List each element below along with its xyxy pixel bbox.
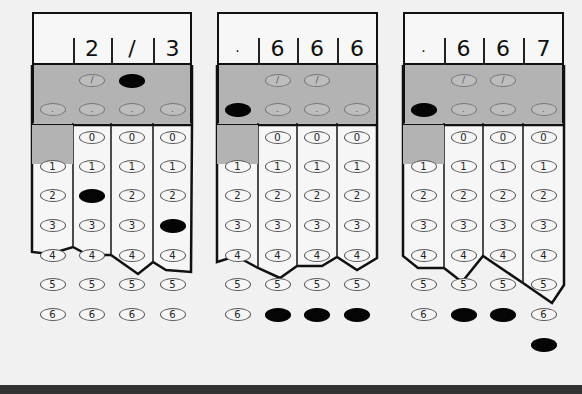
bubble-4[interactable]: 4 <box>490 249 516 262</box>
bubble-dot[interactable]: . <box>344 103 370 116</box>
answer-entry-box[interactable]: / <box>111 37 153 61</box>
bubble-3[interactable]: 3 <box>304 219 330 232</box>
bubble-4[interactable]: 4 <box>304 249 330 262</box>
filled-bubble-6[interactable] <box>451 308 477 322</box>
bubble-5[interactable]: 5 <box>490 278 516 291</box>
answer-entry-box[interactable]: 7 <box>523 37 564 61</box>
bubble-dot[interactable]: . <box>490 103 516 116</box>
bubble-1[interactable]: 1 <box>304 160 330 173</box>
bubble-5[interactable]: 5 <box>265 278 291 291</box>
bubble-slash[interactable]: / <box>451 74 477 87</box>
filled-bubble-6[interactable] <box>265 308 291 322</box>
bubble-0[interactable]: 0 <box>531 131 557 144</box>
bubble-3[interactable]: 3 <box>411 219 437 232</box>
bubble-6[interactable]: 6 <box>160 308 186 321</box>
bubble-6[interactable]: 6 <box>119 308 145 321</box>
answer-entry-box[interactable]: 6 <box>297 37 337 61</box>
bubble-0[interactable]: 0 <box>490 131 516 144</box>
bubble-5[interactable]: 5 <box>531 278 557 291</box>
bubble-2[interactable]: 2 <box>411 189 437 202</box>
bubble-2[interactable]: 2 <box>265 189 291 202</box>
bubble-1[interactable]: 1 <box>79 160 105 173</box>
bubble-4[interactable]: 4 <box>119 249 145 262</box>
bubble-2[interactable]: 2 <box>225 189 251 202</box>
bubble-5[interactable]: 5 <box>119 278 145 291</box>
bubble-3[interactable]: 3 <box>490 219 516 232</box>
bubble-1[interactable]: 1 <box>451 160 477 173</box>
bubble-1[interactable]: 1 <box>225 160 251 173</box>
filled-bubble-6[interactable] <box>490 308 516 322</box>
bubble-4[interactable]: 4 <box>451 249 477 262</box>
bubble-slash[interactable]: / <box>79 74 105 87</box>
bubble-dot[interactable]: . <box>304 103 330 116</box>
filled-bubble-slash[interactable] <box>119 74 145 88</box>
bubble-2[interactable]: 2 <box>490 189 516 202</box>
bubble-dot[interactable]: . <box>79 103 105 116</box>
answer-entry-box[interactable]: 6 <box>337 37 377 61</box>
filled-bubble-2[interactable] <box>79 189 105 203</box>
answer-entry-box[interactable]: 6 <box>483 37 523 61</box>
bubble-5[interactable]: 5 <box>411 278 437 291</box>
bubble-3[interactable]: 3 <box>344 219 370 232</box>
answer-entry-box[interactable]: 6 <box>258 37 297 61</box>
bubble-1[interactable]: 1 <box>344 160 370 173</box>
bubble-0[interactable]: 0 <box>265 131 291 144</box>
filled-bubble-7[interactable] <box>531 338 557 352</box>
bubble-4[interactable]: 4 <box>411 249 437 262</box>
bubble-6[interactable]: 6 <box>411 308 437 321</box>
bubble-2[interactable]: 2 <box>344 189 370 202</box>
bubble-2[interactable]: 2 <box>40 189 66 202</box>
bubble-6[interactable]: 6 <box>225 308 251 321</box>
answer-entry-box[interactable]: . <box>403 37 444 61</box>
bubble-5[interactable]: 5 <box>160 278 186 291</box>
bubble-slash[interactable]: / <box>265 74 291 87</box>
bubble-3[interactable]: 3 <box>531 219 557 232</box>
bubble-dot[interactable]: . <box>160 103 186 116</box>
filled-bubble-dot[interactable] <box>225 103 251 117</box>
bubble-2[interactable]: 2 <box>119 189 145 202</box>
bubble-4[interactable]: 4 <box>40 249 66 262</box>
bubble-2[interactable]: 2 <box>304 189 330 202</box>
bubble-3[interactable]: 3 <box>79 219 105 232</box>
bubble-4[interactable]: 4 <box>265 249 291 262</box>
bubble-1[interactable]: 1 <box>490 160 516 173</box>
bubble-0[interactable]: 0 <box>304 131 330 144</box>
filled-bubble-6[interactable] <box>344 308 370 322</box>
bubble-4[interactable]: 4 <box>79 249 105 262</box>
bubble-1[interactable]: 1 <box>40 160 66 173</box>
bubble-2[interactable]: 2 <box>451 189 477 202</box>
bubble-2[interactable]: 2 <box>160 189 186 202</box>
bubble-1[interactable]: 1 <box>265 160 291 173</box>
bubble-5[interactable]: 5 <box>451 278 477 291</box>
bubble-5[interactable]: 5 <box>225 278 251 291</box>
answer-entry-box[interactable]: 6 <box>444 37 483 61</box>
bubble-1[interactable]: 1 <box>531 160 557 173</box>
bubble-5[interactable]: 5 <box>79 278 105 291</box>
bubble-1[interactable]: 1 <box>411 160 437 173</box>
bubble-0[interactable]: 0 <box>160 131 186 144</box>
bubble-3[interactable]: 3 <box>225 219 251 232</box>
bubble-1[interactable]: 1 <box>119 160 145 173</box>
bubble-4[interactable]: 4 <box>344 249 370 262</box>
bubble-3[interactable]: 3 <box>40 219 66 232</box>
bubble-5[interactable]: 5 <box>40 278 66 291</box>
bubble-slash[interactable]: / <box>304 74 330 87</box>
bubble-5[interactable]: 5 <box>304 278 330 291</box>
bubble-dot[interactable]: . <box>451 103 477 116</box>
bubble-2[interactable]: 2 <box>531 189 557 202</box>
bubble-3[interactable]: 3 <box>451 219 477 232</box>
bubble-1[interactable]: 1 <box>160 160 186 173</box>
answer-entry-box[interactable]: 2 <box>73 37 111 61</box>
filled-bubble-3[interactable] <box>160 219 186 233</box>
bubble-slash[interactable]: / <box>490 74 516 87</box>
bubble-dot[interactable]: . <box>40 103 66 116</box>
filled-bubble-6[interactable] <box>304 308 330 322</box>
bubble-4[interactable]: 4 <box>225 249 251 262</box>
bubble-5[interactable]: 5 <box>344 278 370 291</box>
bubble-4[interactable]: 4 <box>531 249 557 262</box>
bubble-0[interactable]: 0 <box>119 131 145 144</box>
answer-entry-box[interactable]: . <box>217 37 258 61</box>
bubble-0[interactable]: 0 <box>79 131 105 144</box>
bubble-dot[interactable]: . <box>531 103 557 116</box>
filled-bubble-dot[interactable] <box>411 103 437 117</box>
